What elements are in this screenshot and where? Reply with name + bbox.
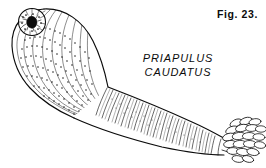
worm-body-group (12, 9, 266, 164)
species-epithet-label: CAUDATUS (142, 65, 214, 79)
trunk-annulations (96, 88, 221, 155)
trunk-fine-rings (99, 89, 212, 154)
mouth-opening (27, 16, 37, 28)
trunk-outline (74, 87, 229, 155)
caudal-vesicles (222, 116, 266, 164)
caudal-appendage (222, 116, 266, 164)
figure-plate: Fig. 23. PRIAPULUS CAUDATUS (0, 0, 266, 168)
priapulid-worm-illustration (0, 0, 266, 168)
figure-number-label: Fig. 23. (217, 8, 258, 20)
species-caption: PRIAPULUS CAUDATUS (142, 51, 214, 79)
species-genus-label: PRIAPULUS (142, 51, 214, 65)
mouth-region (19, 9, 46, 36)
proboscis-spine-rows (20, 27, 92, 114)
